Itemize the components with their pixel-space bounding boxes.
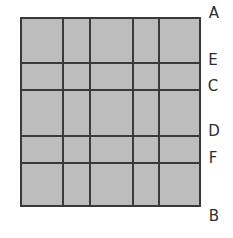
horizontal-grid-line-2: [22, 89, 199, 91]
label-c: C: [208, 79, 218, 94]
label-a: A: [209, 6, 219, 21]
shaded-grid: [20, 17, 201, 207]
horizontal-grid-line-4: [22, 162, 199, 164]
horizontal-grid-line-3: [22, 135, 199, 137]
label-d: D: [208, 124, 220, 139]
vertical-grid-line-1: [62, 19, 64, 205]
label-e: E: [208, 53, 217, 68]
label-f: F: [209, 151, 218, 166]
horizontal-grid-line-1: [22, 62, 199, 64]
vertical-grid-line-3: [132, 19, 134, 205]
vertical-grid-line-4: [158, 19, 160, 205]
label-b: B: [209, 209, 219, 224]
vertical-grid-line-2: [89, 19, 91, 205]
